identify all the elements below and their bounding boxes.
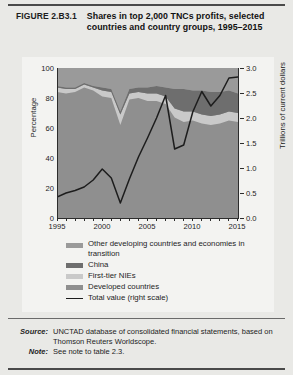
plot-region: 1995 2000 2005 2010 2015 [57, 68, 238, 218]
note-text: See note to table 2.3. [53, 347, 124, 357]
top-divider [8, 4, 285, 6]
axis-line-right [238, 68, 239, 219]
y-tick-label-40: 40 [46, 154, 54, 163]
x-tick-label-2000: 2000 [94, 222, 111, 231]
legend-item-other-developing[interactable]: Other developing countries and economies… [66, 239, 266, 258]
figure-page: FIGURE 2.B3.1 Shares in top 2,000 TNCs p… [0, 0, 293, 375]
x-tick-mark [102, 218, 103, 221]
x-tick-mark [57, 218, 58, 221]
y2-tick-label-2-0: 2.0 [246, 114, 257, 123]
x-tick-mark [66, 218, 67, 221]
legend-swatch-total-value-line [66, 298, 83, 299]
y-axis-title-right: Trillions of current dollars [278, 51, 287, 161]
x-tick-mark [129, 218, 130, 221]
source-text: UNCTAD database of consolidated financia… [53, 327, 281, 346]
source-label: Source: [16, 327, 48, 337]
note-row: Note: See note to table 2.3. [16, 347, 281, 357]
x-tick-mark [174, 218, 175, 221]
y2-tick-label-2-5: 2.5 [246, 89, 257, 98]
x-tick-mark [201, 218, 202, 221]
legend-swatch-first-tier-nies [66, 274, 83, 279]
x-tick-mark [111, 218, 112, 221]
figure-notes: Source: UNCTAD database of consolidated … [16, 327, 281, 357]
y2-tick-mark [240, 143, 244, 144]
y2-tick-label-0-0: 0.0 [246, 214, 257, 223]
x-tick-mark [84, 218, 85, 221]
y-tick-label-20: 20 [46, 184, 54, 193]
y2-tick-mark [240, 218, 244, 219]
x-tick-label-2005: 2005 [139, 222, 156, 231]
y-axis-title-left: Percentage [29, 83, 38, 153]
y-axis-right: 3.0 2.5 2.0 1.5 1.0 0.5 0.0 [240, 68, 274, 219]
x-tick-mark [219, 218, 220, 221]
x-tick-mark [147, 218, 148, 221]
x-tick-mark [210, 218, 211, 221]
figure-header: FIGURE 2.B3.1 Shares in top 2,000 TNCs p… [16, 11, 283, 33]
y2-tick-mark [240, 168, 244, 169]
legend-item-first-tier-nies[interactable]: First-tier NIEs [66, 271, 266, 281]
y2-tick-mark [240, 193, 244, 194]
x-tick-label-1995: 1995 [49, 222, 66, 231]
y2-tick-label-1-0: 1.0 [246, 164, 257, 173]
legend-swatch-developed-countries [66, 285, 83, 290]
x-tick-label-2010: 2010 [184, 222, 201, 231]
x-tick-label-2015: 2015 [229, 222, 246, 231]
x-tick-mark [228, 218, 229, 221]
y2-tick-label-1-5: 1.5 [246, 139, 257, 148]
x-tick-mark [192, 218, 193, 221]
note-label: Note: [16, 347, 48, 357]
y2-tick-mark [240, 93, 244, 94]
figure-number: FIGURE 2.B3.1 [16, 11, 77, 21]
x-tick-mark [138, 218, 139, 221]
chart-svg [57, 68, 238, 218]
axis-line-left [57, 68, 58, 219]
legend-label: Developed countries [88, 282, 159, 292]
notes-divider [8, 318, 285, 319]
bottom-divider [8, 368, 285, 370]
x-tick-mark [183, 218, 184, 221]
y-axis-left: 100 80 60 40 20 0 [22, 68, 57, 219]
legend-swatch-china [66, 263, 83, 268]
legend-swatch-other-developing [66, 243, 83, 248]
legend-item-developed-countries[interactable]: Developed countries [66, 282, 266, 292]
chart-panel: 100 80 60 40 20 0 Percentage [22, 57, 274, 312]
source-row: Source: UNCTAD database of consolidated … [16, 327, 281, 346]
legend-item-china[interactable]: China [66, 260, 266, 270]
legend-label: Total value (right scale) [88, 293, 168, 303]
x-tick-mark [75, 218, 76, 221]
y2-tick-label-3-0: 3.0 [246, 64, 257, 73]
y2-tick-mark [240, 68, 244, 69]
legend-label: Other developing countries and economies… [88, 239, 266, 258]
legend-label: China [88, 260, 108, 270]
y2-tick-label-0-5: 0.5 [246, 189, 257, 198]
y-tick-label-100: 100 [41, 64, 54, 73]
x-tick-mark [237, 218, 238, 221]
x-tick-mark [93, 218, 94, 221]
x-tick-mark [165, 218, 166, 221]
y-tick-label-60: 60 [46, 124, 54, 133]
legend-label: First-tier NIEs [88, 271, 136, 281]
x-tick-mark [120, 218, 121, 221]
y2-tick-mark [240, 118, 244, 119]
chart-legend: Other developing countries and economies… [66, 239, 266, 304]
stacked-area-plot [57, 68, 238, 218]
page-title: Shares in top 2,000 TNCs profits, select… [87, 11, 283, 33]
x-tick-mark [156, 218, 157, 221]
y-tick-label-80: 80 [46, 94, 54, 103]
legend-item-total-value[interactable]: Total value (right scale) [66, 293, 266, 303]
